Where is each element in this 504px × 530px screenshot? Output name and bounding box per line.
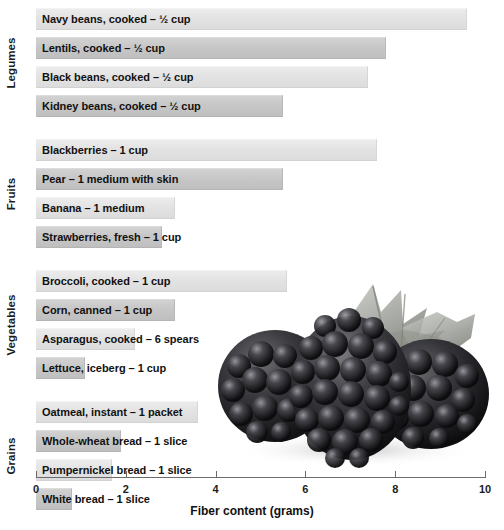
group-label-vegetables: Vegetables <box>0 270 22 379</box>
x-tick <box>485 471 486 478</box>
bar-label: Kidney beans, cooked – ½ cup <box>42 95 201 117</box>
group-label-text: Legumes <box>5 37 17 88</box>
bar-label: Blackberries – 1 cup <box>42 139 148 161</box>
bar-label: Asparagus, cooked – 6 spears <box>42 328 199 350</box>
group-label-text: Fruits <box>5 177 17 210</box>
x-tick-label: 8 <box>392 483 398 495</box>
x-axis-line <box>36 477 485 478</box>
bar-label: Lettuce, iceberg – 1 cup <box>42 357 166 379</box>
x-tick <box>395 471 396 478</box>
group-label-text: Vegetables <box>5 294 17 355</box>
bar-label: Pear – 1 medium with skin <box>42 168 178 190</box>
group-label-grains: Grains <box>0 401 22 510</box>
group-label-fruits: Fruits <box>0 139 22 248</box>
x-tick <box>216 471 217 478</box>
bar-label: Black beans, cooked – ½ cup <box>42 66 194 88</box>
x-tick <box>305 471 306 478</box>
x-tick-label: 10 <box>479 483 491 495</box>
bar-label: Strawberries, fresh – 1 cup <box>42 226 181 248</box>
x-axis-title: Fiber content (grams) <box>0 504 504 518</box>
bar-label: Broccoli, cooked – 1 cup <box>42 270 170 292</box>
bar-label: Navy beans, cooked – ½ cup <box>42 8 190 30</box>
bar-label: Lentils, cooked – ½ cup <box>42 37 165 59</box>
group-label-legumes: Legumes <box>0 8 22 117</box>
bar-label: Corn, canned – 1 cup <box>42 299 152 321</box>
x-tick <box>126 471 127 478</box>
fiber-content-bar-chart: LegumesFruitsVegetablesGrains Navy beans… <box>0 0 504 530</box>
x-tick <box>36 471 37 478</box>
bar-label: Oatmeal, instant – 1 packet <box>42 401 183 423</box>
bar-label: Banana – 1 medium <box>42 197 144 219</box>
x-tick-label: 0 <box>33 483 39 495</box>
bar-label: Whole-wheat bread – 1 slice <box>42 430 187 452</box>
x-tick-label: 4 <box>213 483 219 495</box>
plot-area: LegumesFruitsVegetablesGrains Navy beans… <box>0 0 504 530</box>
x-tick-label: 2 <box>123 483 129 495</box>
group-label-text: Grains <box>5 437 17 474</box>
x-tick-label: 6 <box>302 483 308 495</box>
